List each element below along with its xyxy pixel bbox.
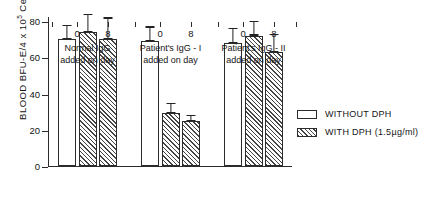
x-group-label: Patient's IgG - IIadded on day: [221, 43, 285, 66]
error-bar-cap: [249, 34, 258, 35]
error-bar-cap: [187, 120, 196, 121]
x-tick-label: 8: [105, 28, 110, 39]
x-tick-mark: [274, 22, 275, 27]
x-group-label: Normal IgGadded on day: [60, 43, 115, 66]
x-tick-label: 8: [188, 28, 193, 39]
error-bar-cap: [63, 38, 72, 39]
error-bar-cap: [166, 112, 175, 113]
plot-area: 020406080 08Normal IgGadded on day08Pati…: [48, 22, 292, 167]
error-bar-cap: [187, 115, 196, 116]
legend-item: WITH DPH (1.5µg/ml): [297, 127, 433, 141]
legend-swatch-open: [297, 110, 317, 119]
x-group-label-line2: added on day: [60, 55, 115, 67]
x-axis-end-tick: [296, 22, 297, 27]
error-bar-cap: [249, 21, 258, 22]
x-tick-mark: [243, 22, 244, 27]
x-group-separator-tick: [218, 22, 219, 27]
bar: [265, 52, 283, 166]
error-bar-stem: [232, 28, 233, 43]
x-group-label-line1: Patient's IgG - I: [140, 43, 202, 53]
x-tick-mark: [191, 22, 192, 27]
x-tick-label: 0: [241, 28, 246, 39]
error-bar-cap: [63, 25, 72, 26]
x-group-label-line1: Patient's IgG - II: [221, 43, 285, 53]
error-bar-cap: [146, 26, 155, 27]
bar-chart-figure: BLOOD BFU-E/4 x 105 Cells 020406080 08No…: [0, 0, 435, 219]
x-tick-label: 0: [158, 28, 163, 39]
y-tick-mark: [42, 167, 48, 168]
y-axis-label: BLOOD BFU-E/4 x 105 Cells: [16, 0, 28, 134]
x-group-label-line1: Normal IgG: [64, 43, 110, 53]
legend-item: WITHOUT DPH: [297, 109, 433, 123]
x-group-separator-tick: [52, 22, 53, 27]
legend-swatch-hatched: [297, 128, 317, 137]
error-bar-cap: [104, 17, 113, 18]
chart-legend: WITHOUT DPHWITH DPH (1.5µg/ml): [297, 109, 433, 145]
y-axis-label-exponent: 5: [16, 15, 23, 19]
y-tick-label: 60: [29, 54, 40, 64]
x-tick-mark: [77, 22, 78, 27]
error-bar-stem: [149, 26, 150, 41]
x-group-label: Patient's IgG - Iadded on day: [140, 43, 202, 66]
x-tick-mark: [108, 22, 109, 27]
legend-label: WITH DPH (1.5µg/ml): [325, 127, 418, 137]
error-bar-stem: [253, 21, 254, 36]
error-bar-cap: [83, 31, 92, 32]
y-tick-label: 20: [29, 126, 40, 136]
x-group-label-line2: added on day: [221, 55, 285, 67]
x-tick-label: 8: [271, 28, 276, 39]
x-group-separator-tick: [135, 22, 136, 27]
y-axis-label-prefix: BLOOD BFU-E/4 x 10: [17, 19, 28, 120]
y-axis-label-suffix: Cells: [17, 0, 28, 15]
error-bar-cap: [146, 40, 155, 41]
y-tick-label: 80: [29, 17, 40, 27]
error-bar-stem: [66, 25, 67, 40]
x-tick-label: 0: [75, 28, 80, 39]
error-bar-cap: [166, 103, 175, 104]
legend-label: WITHOUT DPH: [325, 109, 392, 119]
error-bar-cap: [229, 28, 238, 29]
x-group-label-line2: added on day: [140, 55, 202, 67]
y-tick-label: 0: [35, 162, 40, 172]
error-bar-stem: [87, 14, 88, 32]
bar: [182, 121, 200, 166]
error-bar-cap: [83, 14, 92, 15]
y-tick-label: 40: [29, 90, 40, 100]
bar: [162, 113, 180, 166]
x-tick-mark: [160, 22, 161, 27]
